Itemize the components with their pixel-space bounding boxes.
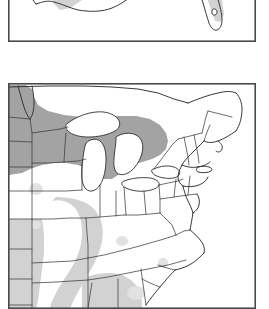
coastline-layer-top bbox=[14, 0, 222, 30]
northeast-midwest-map bbox=[8, 83, 256, 309]
shade-layer-top bbox=[48, 0, 224, 22]
southeast-gulf-coast-map bbox=[8, 0, 256, 42]
